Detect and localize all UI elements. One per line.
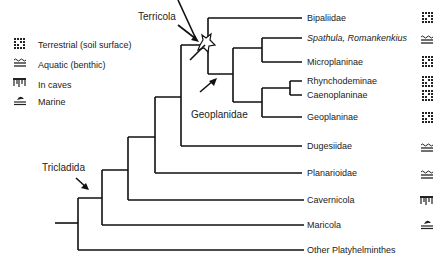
legend-marine-label: Marine bbox=[38, 97, 66, 107]
tricladida-label: Tricladida bbox=[42, 163, 85, 173]
taxon-label: Rhynchodeminae bbox=[307, 76, 377, 86]
legend-cave-label: In caves bbox=[38, 80, 72, 90]
taxon-label: Bipaliidae bbox=[307, 13, 346, 23]
geoplanidae-label: Geoplanidae bbox=[191, 110, 248, 120]
taxon-label: Cavernicola bbox=[307, 195, 355, 205]
taxon-label: Microplaninae bbox=[307, 57, 363, 67]
taxon-label: Planarioidae bbox=[307, 168, 357, 178]
taxon-label: Caenoplaninae bbox=[307, 90, 368, 100]
legend-terrestrial-label: Terrestrial (soil surface) bbox=[38, 40, 132, 50]
taxon-label: Geoplaninae bbox=[307, 112, 358, 122]
taxon-label: Dugesiidae bbox=[307, 141, 352, 151]
taxon-label: Other Platyhelminthes bbox=[307, 245, 396, 255]
terricola-label: Terricola bbox=[138, 12, 176, 22]
taxon-label: Spathula, Romankenkius bbox=[307, 33, 407, 43]
taxon-label: Maricola bbox=[307, 220, 341, 230]
legend-aquatic-label: Aquatic (benthic) bbox=[38, 60, 106, 70]
